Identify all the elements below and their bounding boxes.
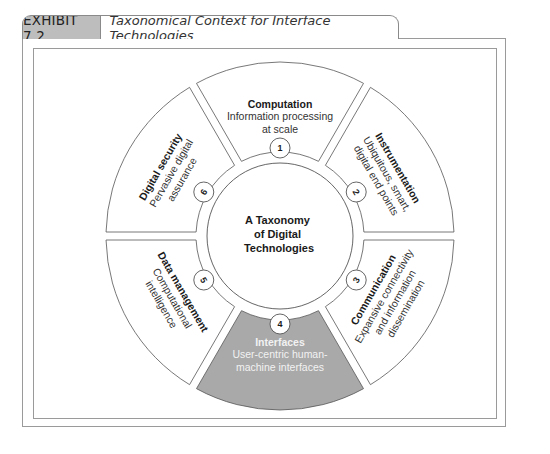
number-badge-2: 2 <box>346 182 366 202</box>
taxonomy-wheel-diagram: A Taxonomy of Digital Technologies 12345… <box>0 0 550 454</box>
number-badge-1: 1 <box>270 138 290 158</box>
center-title: A Taxonomy of Digital Technologies <box>244 214 314 254</box>
number-badge-4: 4 <box>270 314 290 334</box>
exhibit-header-tab: EXHIBIT 7.2 Taxonomical Context for Inte… <box>22 15 399 39</box>
number-badge-5: 5 <box>194 270 214 290</box>
exhibit-title: Taxonomical Context for Interface Techno… <box>101 16 398 39</box>
svg-text:4: 4 <box>277 319 282 329</box>
number-badge-6: 6 <box>194 182 214 202</box>
exhibit-label: EXHIBIT 7.2 <box>23 16 101 39</box>
svg-text:1: 1 <box>277 143 282 153</box>
number-badge-3: 3 <box>346 270 366 290</box>
